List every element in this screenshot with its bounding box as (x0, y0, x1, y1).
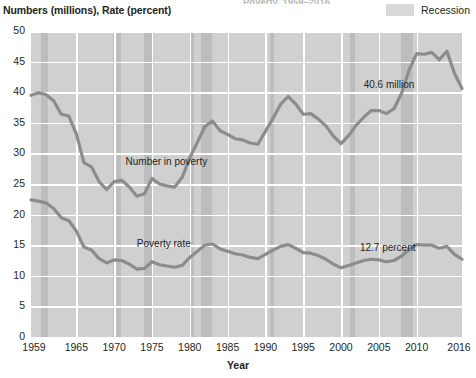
x-tick-label: 1990 (254, 341, 277, 353)
x-axis-title: Year (0, 359, 476, 371)
x-tick-label: 2010 (405, 341, 428, 353)
y-tick-label: 35 (0, 116, 25, 128)
x-tick-label: 1995 (292, 341, 315, 353)
annotation-40-6-million: 40.6 million (364, 79, 415, 90)
y-tick-label: 0 (0, 330, 25, 342)
poverty-chart: Poverty, 1959–2016 Numbers (millions), R… (0, 0, 476, 378)
x-tick-label: 1985 (216, 341, 239, 353)
y-tick-label: 40 (0, 85, 25, 97)
y-tick-label: 50 (0, 24, 25, 36)
y-axis-caption: Numbers (millions), Rate (percent) (3, 4, 171, 16)
series-line-number-in-poverty (31, 51, 462, 196)
series-lines (31, 31, 462, 337)
plot-area: Number in povertyPoverty rate40.6 millio… (31, 31, 462, 337)
x-tick-label: 1975 (140, 341, 163, 353)
x-tick-label: 1980 (178, 341, 201, 353)
gridline-vertical (462, 31, 464, 337)
annotation-12-7-percent: 12.7 percent (360, 242, 416, 253)
x-tick-label: 1959 (22, 341, 45, 353)
x-tick-label: 2000 (329, 341, 352, 353)
y-tick-label: 15 (0, 238, 25, 250)
annotation-poverty-rate: Poverty rate (137, 238, 191, 249)
legend-label-recession: Recession (421, 4, 470, 16)
x-tick-label: 1965 (65, 341, 88, 353)
y-tick-label: 10 (0, 269, 25, 281)
x-tick-label: 2005 (367, 341, 390, 353)
y-tick-label: 45 (0, 55, 25, 67)
x-tick-label: 2016 (447, 341, 470, 353)
annotation-number-in-poverty: Number in poverty (126, 156, 208, 167)
y-tick-label: 30 (0, 146, 25, 158)
x-tick-label: 1970 (102, 341, 125, 353)
legend-swatch-recession (386, 4, 414, 16)
y-tick-label: 20 (0, 208, 25, 220)
legend: Recession (386, 4, 470, 16)
series-line-poverty-rate (31, 200, 462, 269)
y-tick-label: 25 (0, 177, 25, 189)
y-tick-label: 5 (0, 299, 25, 311)
